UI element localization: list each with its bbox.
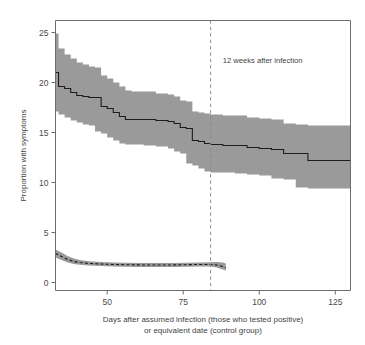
y-tick-label: 0 xyxy=(44,278,49,288)
x-axis-title-line1: Days after assumed infection (those who … xyxy=(103,315,304,324)
y-tick-label: 10 xyxy=(39,178,49,188)
x-tick-label: 75 xyxy=(178,297,188,307)
y-tick-label: 5 xyxy=(44,228,49,238)
x-tick-label: 125 xyxy=(328,297,342,307)
x-tick-label: 100 xyxy=(252,297,266,307)
ci-band-positive xyxy=(56,34,351,189)
y-axis-title: Proportion with symptoms xyxy=(19,109,28,201)
chart-container: 12 weeks after infection 5075100125 0510… xyxy=(0,0,365,345)
x-tick-label: 50 xyxy=(102,297,112,307)
annotation-12-weeks-label: 12 weeks after infection xyxy=(223,56,303,65)
y-axis-ticks: 0510152025 xyxy=(39,28,55,288)
y-tick-label: 20 xyxy=(39,78,49,88)
y-tick-label: 15 xyxy=(39,128,49,138)
x-axis-ticks: 5075100125 xyxy=(102,291,342,307)
y-tick-label: 25 xyxy=(39,28,49,38)
survival-curve-chart: 12 weeks after infection 5075100125 0510… xyxy=(0,0,365,345)
annotation-text: 12 weeks after infection xyxy=(223,56,303,65)
x-axis-title-line2: or equivalent date (control group) xyxy=(144,326,262,335)
ci-bands xyxy=(56,34,351,271)
ci-band-control xyxy=(56,250,226,271)
